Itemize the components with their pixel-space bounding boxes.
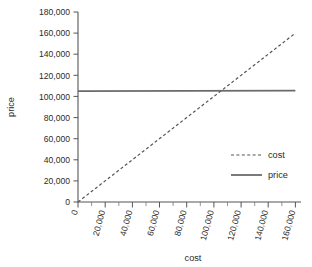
line-chart: 180,000 160,000 140,000 120,000 100,000 …: [0, 0, 312, 267]
y-tick-label: 80,000: [44, 113, 71, 123]
price-line: [78, 91, 295, 92]
chart-container: 180,000 160,000 140,000 120,000 100,000 …: [0, 0, 312, 267]
y-tick-label: 120,000: [39, 71, 70, 81]
y-axis-title: price: [6, 97, 16, 117]
legend-label-price: price: [268, 170, 288, 180]
series-price: [78, 91, 295, 92]
y-tick-label: 180,000: [39, 7, 70, 17]
y-tick-label: 160,000: [39, 28, 70, 38]
y-tick-label: 40,000: [44, 155, 71, 165]
legend-label-cost: cost: [268, 150, 285, 160]
y-tick-label: 20,000: [44, 176, 71, 186]
y-tick-label: 60,000: [44, 134, 71, 144]
x-axis-title: cost: [185, 253, 202, 263]
y-tick-label: 100,000: [39, 92, 70, 102]
y-tick-label: 140,000: [39, 49, 70, 59]
y-tick-label: 0: [65, 197, 70, 207]
